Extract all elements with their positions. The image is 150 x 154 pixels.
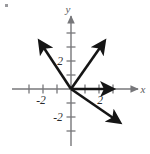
ray-down-right [71, 89, 119, 122]
y-tick-label--2: -2 [53, 111, 63, 123]
x-tick-label--2: -2 [36, 94, 46, 106]
ray-group [40, 42, 119, 122]
y-axis-label: y [65, 3, 71, 15]
x-axis-label: x [140, 83, 146, 95]
y-tick-label-2: 2 [57, 55, 63, 67]
ray-up-left [40, 42, 71, 89]
x-tick-label-2: 2 [97, 94, 103, 106]
figure-container: y x -2 2 2 -2 [0, 0, 150, 154]
ray-up-right [71, 42, 104, 89]
y-axis [67, 16, 76, 146]
coordinate-plane-graph: y x -2 2 2 -2 [0, 0, 150, 154]
